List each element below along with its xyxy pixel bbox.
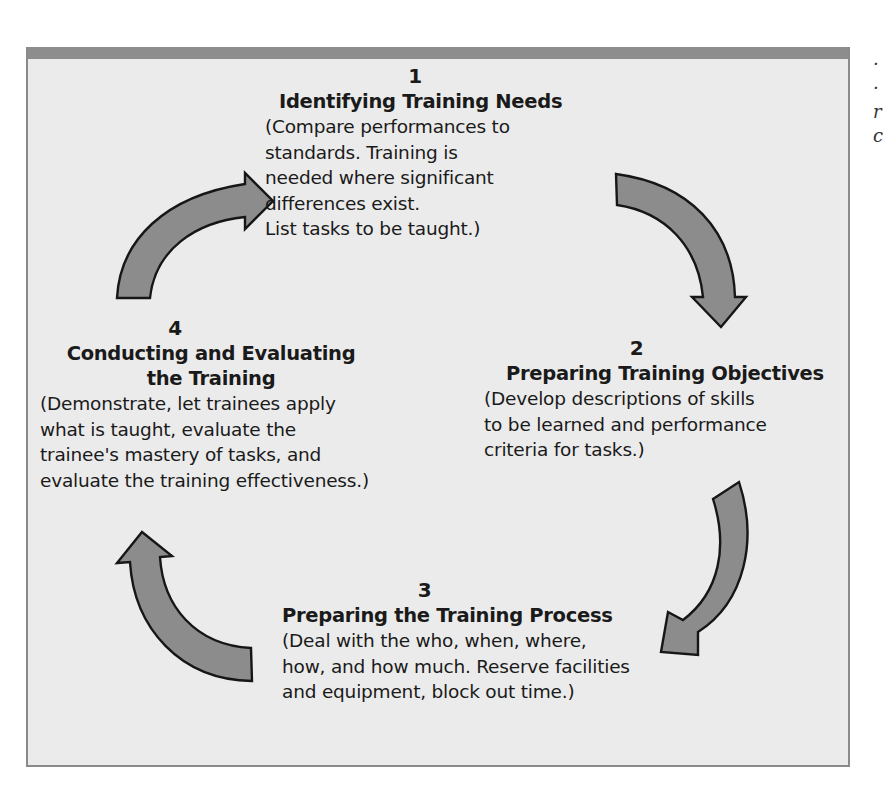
step-title: Preparing the Training Process bbox=[282, 603, 662, 628]
frame-header-band bbox=[28, 47, 848, 59]
cropped-caption-fragment: · · r c bbox=[873, 52, 885, 148]
step-number: 4 bbox=[40, 316, 310, 341]
step-description: (Compare performances to standards. Trai… bbox=[265, 114, 595, 242]
step-description: (Demonstrate, let trainees apply what is… bbox=[40, 391, 430, 493]
step-description: (Develop descriptions of skills to be le… bbox=[484, 386, 854, 463]
step-title: Identifying Training Needs bbox=[265, 89, 595, 114]
step-number: 3 bbox=[282, 578, 567, 603]
step-conducting-evaluating-training: 4 Conducting and Evaluating the Training… bbox=[40, 316, 430, 493]
step-title-line-2: the Training bbox=[40, 366, 382, 391]
step-preparing-training-process: 3 Preparing the Training Process (Deal w… bbox=[282, 578, 662, 705]
step-title-line-1: Conducting and Evaluating bbox=[40, 341, 382, 366]
step-number: 1 bbox=[265, 64, 565, 89]
step-description: (Deal with the who, when, where, how, an… bbox=[282, 628, 662, 705]
step-identifying-training-needs: 1 Identifying Training Needs (Compare pe… bbox=[265, 64, 595, 242]
step-preparing-training-objectives: 2 Preparing Training Objectives (Develop… bbox=[484, 336, 854, 463]
step-number: 2 bbox=[484, 336, 789, 361]
step-title: Preparing Training Objectives bbox=[484, 361, 854, 386]
